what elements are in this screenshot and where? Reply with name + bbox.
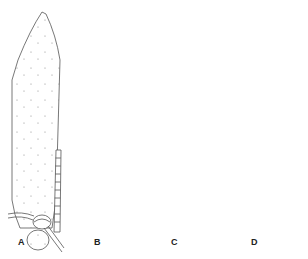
specimen-figure: A B C D — [0, 0, 308, 259]
panel-label-a: A — [18, 238, 25, 247]
figure-drawing — [0, 0, 308, 259]
panel-a-specimen — [8, 12, 64, 252]
panel-label-d: D — [251, 238, 258, 247]
panel-label-c: C — [171, 238, 178, 247]
panel-label-b: B — [94, 238, 101, 247]
